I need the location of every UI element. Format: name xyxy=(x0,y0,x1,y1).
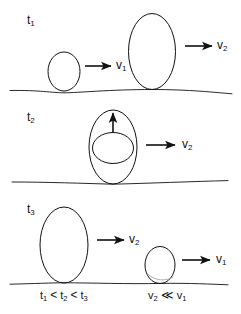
velocity-ordering-caption: v2≪v1 xyxy=(148,289,186,303)
velocity-label-v1-row-1: v1 xyxy=(116,59,126,73)
caption-v1: v1 xyxy=(177,289,187,301)
small-bubble-row-1 xyxy=(48,52,80,91)
row-1-group xyxy=(10,14,232,94)
velocity-label-v2-row-3: v2 xyxy=(129,233,139,247)
substrate-line-row-1 xyxy=(10,90,232,94)
velocity-label-v1-row-3: v1 xyxy=(216,253,226,267)
inner-bubble-row-2 xyxy=(93,133,134,164)
caption-op-lt-1: < xyxy=(47,288,60,302)
large-bubble-row-1 xyxy=(129,14,176,90)
velocity-label-v2-row-2: v2 xyxy=(182,138,192,152)
neck-line-row-3 xyxy=(147,274,173,280)
large-bubble-row-3 xyxy=(40,207,88,283)
time-label-t2: t2 xyxy=(27,111,35,125)
caption-v2: v2 xyxy=(148,289,158,301)
caption-op-lt-2: < xyxy=(67,288,80,302)
diagram-svg xyxy=(0,0,241,314)
row-3-group xyxy=(10,207,228,285)
row-2-group xyxy=(12,110,228,184)
substrate-line-row-3 xyxy=(10,283,228,285)
time-ordering-caption: t1<t2<t3 xyxy=(40,289,88,303)
figure-canvas: t1 t2 t3 v1 v2 v2 v2 v1 t1<t2<t3 v2≪v1 xyxy=(0,0,241,314)
time-label-t3: t3 xyxy=(27,203,35,217)
time-label-t1: t1 xyxy=(27,14,35,28)
caption-op-much-less: ≪ xyxy=(158,288,177,302)
caption-t3: t3 xyxy=(81,289,88,301)
velocity-label-v2-row-1: v2 xyxy=(217,39,227,53)
